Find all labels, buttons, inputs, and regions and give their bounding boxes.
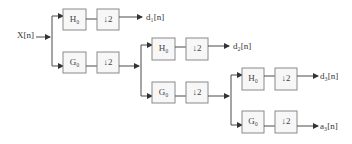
downsample-label: ↓2 [104, 57, 113, 67]
output-d1-label: d₁[n] [146, 12, 164, 22]
stage-1: H₀ ↓2 d₁[n] G₀ ↓2 [52, 9, 164, 73]
highpass-filter-label: H₀ [70, 14, 80, 24]
downsample-label: ↓2 [282, 116, 291, 126]
filter-bank-diagram: X[n] H₀ ↓2 d₁[n] G₀ ↓2 H₀ ↓2 d₂[n] G₀ [0, 0, 352, 144]
input-label: X[n] [17, 30, 34, 40]
output-a3-label: a₃[n] [320, 121, 338, 131]
stage-3: H₀ ↓2 d₃[n] G₀ ↓2 a₃[n] [231, 68, 338, 133]
lowpass-filter-label: G₀ [70, 57, 80, 67]
downsample-label: ↓2 [104, 14, 113, 24]
highpass-filter-label: H₀ [159, 43, 169, 53]
downsample-label: ↓2 [193, 43, 202, 53]
output-d3-label: d₃[n] [320, 71, 338, 81]
downsample-label: ↓2 [282, 73, 291, 83]
downsample-label: ↓2 [193, 87, 202, 97]
lowpass-filter-label: G₀ [159, 87, 169, 97]
output-d2-label: d₂[n] [233, 41, 251, 51]
lowpass-filter-label: G₀ [248, 116, 258, 126]
stage-2: H₀ ↓2 d₂[n] G₀ ↓2 [141, 38, 251, 103]
highpass-filter-label: H₀ [248, 73, 258, 83]
